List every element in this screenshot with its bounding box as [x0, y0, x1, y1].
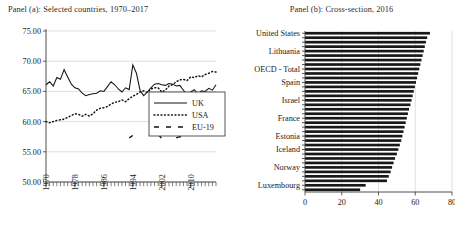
- bar: [305, 45, 425, 48]
- x-tick-label: 1978: [71, 174, 80, 190]
- bar: [305, 50, 424, 53]
- bar: [305, 86, 415, 89]
- bar: [305, 81, 416, 84]
- bar: [305, 99, 412, 102]
- x-tick-label: 1994: [129, 174, 138, 190]
- bar: [305, 108, 409, 111]
- bar: [305, 121, 406, 124]
- panel-a-chart: 50.0055.0060.0065.0070.0075.001970197819…: [0, 0, 228, 229]
- legend-label-eu-19: EU-19: [192, 123, 214, 132]
- bar: [305, 171, 391, 174]
- bar: [305, 59, 422, 62]
- bar: [305, 54, 423, 57]
- bar: [305, 166, 392, 169]
- category-label: Norway: [274, 163, 301, 172]
- bar: [305, 32, 430, 35]
- bar: [305, 72, 418, 75]
- bar: [305, 36, 427, 39]
- y-tick-label: 55.00: [23, 148, 41, 157]
- panel-b-title: Panel (b): Cross-section, 2016: [228, 5, 455, 14]
- bar: [305, 103, 410, 106]
- bar: [305, 184, 366, 187]
- bar: [305, 139, 401, 142]
- x-tick-label: 1986: [100, 174, 109, 190]
- bar: [305, 41, 426, 44]
- bar: [305, 130, 403, 133]
- category-label: Iceland: [276, 145, 300, 154]
- bar: [305, 162, 394, 165]
- panel-a: Panel (a): Selected countries, 1970–2017…: [0, 0, 228, 229]
- x-tick-label: 1970: [42, 174, 51, 190]
- bar: [305, 117, 407, 120]
- y-tick-label: 70.00: [23, 57, 41, 66]
- legend-label-usa: USA: [192, 111, 208, 120]
- category-label: Israel: [282, 96, 301, 105]
- bar: [305, 90, 414, 93]
- bar: [305, 112, 408, 115]
- category-label: OECD - Total: [254, 65, 300, 74]
- bar: [305, 144, 400, 147]
- bar: [305, 179, 387, 182]
- legend-label-uk: UK: [192, 99, 204, 108]
- panel-b: Panel (b): Cross-section, 2016 020406080…: [228, 0, 455, 229]
- x-tick-label: 80: [448, 198, 455, 207]
- x-tick-label: 20: [338, 198, 346, 207]
- y-tick-label: 60.00: [23, 118, 41, 127]
- y-tick-label: 65.00: [23, 87, 41, 96]
- bar: [305, 157, 395, 160]
- bar: [305, 175, 389, 178]
- x-tick-label: 40: [374, 198, 382, 207]
- bar: [305, 63, 420, 66]
- series-line-uk: [46, 65, 216, 96]
- bar: [305, 126, 405, 129]
- y-tick-label: 75.00: [23, 27, 41, 36]
- x-tick-label: 2010: [187, 174, 196, 190]
- bar: [305, 188, 360, 191]
- figure-container: Panel (a): Selected countries, 1970–2017…: [0, 0, 455, 229]
- bar: [305, 68, 419, 71]
- category-label: United States: [256, 29, 300, 38]
- category-label: Spain: [281, 78, 300, 87]
- panel-a-title: Panel (a): Selected countries, 1970–2017: [0, 5, 236, 14]
- x-tick-label: 60: [411, 198, 419, 207]
- bar: [305, 153, 397, 156]
- panel-b-chart: 020406080United StatesLithuaniaOECD - To…: [228, 0, 455, 229]
- bar: [305, 77, 417, 80]
- x-tick-label: 2002: [158, 174, 167, 190]
- bar: [305, 135, 402, 138]
- category-label: Luxembourg: [258, 181, 300, 190]
- y-tick-label: 50.00: [23, 178, 41, 187]
- bar: [305, 148, 398, 151]
- category-label: Estonia: [275, 132, 300, 141]
- category-label: Lithuania: [269, 47, 301, 56]
- x-tick-label: 0: [303, 198, 307, 207]
- bar: [305, 95, 413, 98]
- category-label: France: [278, 114, 301, 123]
